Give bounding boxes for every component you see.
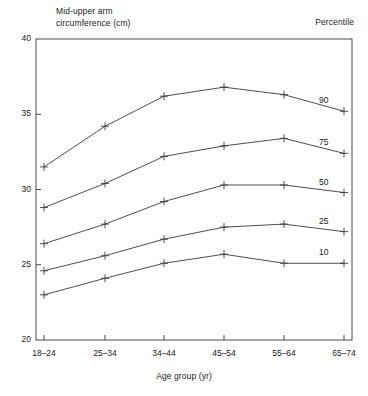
data-point-marker (280, 220, 288, 228)
x-axis-tick-label: 18–24 (14, 348, 74, 358)
data-point-marker (280, 91, 288, 99)
data-point-marker (280, 134, 288, 142)
x-axis-tick-label: 25–34 (75, 348, 135, 358)
series-line (44, 224, 344, 271)
y-axis-title: Mid-upper arm circumference (cm) (56, 6, 131, 29)
plot-frame (36, 39, 352, 340)
data-point-marker (160, 259, 168, 267)
data-point-marker (220, 223, 228, 231)
series-line (44, 185, 344, 244)
data-point-marker (101, 220, 109, 228)
data-point-marker (220, 142, 228, 150)
y-axis-tick-label: 30 (9, 184, 31, 194)
data-point-marker (40, 240, 48, 248)
data-point-marker (220, 250, 228, 258)
data-point-marker (280, 181, 288, 189)
data-point-marker (340, 149, 348, 157)
data-point-marker (101, 274, 109, 282)
data-point-marker (40, 267, 48, 275)
data-point-marker (340, 228, 348, 236)
data-point-marker (220, 83, 228, 91)
data-point-marker (220, 181, 228, 189)
data-point-marker (101, 252, 109, 260)
chart-figure: Mid-upper arm circumference (cm) Percent… (0, 0, 368, 396)
y-axis-tick-label: 40 (9, 33, 31, 43)
y-axis-tick-label: 35 (9, 108, 31, 118)
data-point-marker (40, 204, 48, 212)
series-label-10: 10 (319, 247, 328, 257)
data-point-marker (160, 235, 168, 243)
data-point-marker (160, 152, 168, 160)
series-label-75: 75 (319, 137, 328, 147)
series-label-50: 50 (319, 177, 328, 187)
series-line (44, 254, 344, 295)
x-axis-tick-label: 45–54 (194, 348, 254, 358)
data-point-marker (340, 259, 348, 267)
data-point-marker (280, 259, 288, 267)
x-axis-tick-label: 55–64 (254, 348, 314, 358)
data-point-marker (101, 179, 109, 187)
x-axis-tick-label: 34–44 (134, 348, 194, 358)
data-point-marker (340, 107, 348, 115)
x-axis-tick-label: 65–74 (314, 348, 368, 358)
y-axis-tick-label: 20 (9, 334, 31, 344)
legend-title: Percentile (315, 17, 354, 27)
data-point-marker (340, 189, 348, 197)
data-point-marker (40, 163, 48, 171)
x-axis-title: Age group (yr) (0, 371, 368, 381)
y-axis-tick-label: 25 (9, 259, 31, 269)
series-line (44, 138, 344, 207)
series-label-25: 25 (319, 216, 328, 226)
plot-area (0, 0, 368, 396)
data-point-marker (101, 122, 109, 130)
series-label-90: 90 (319, 95, 328, 105)
data-point-marker (40, 291, 48, 299)
series-line (44, 87, 344, 167)
data-point-marker (160, 92, 168, 100)
data-point-marker (160, 198, 168, 206)
